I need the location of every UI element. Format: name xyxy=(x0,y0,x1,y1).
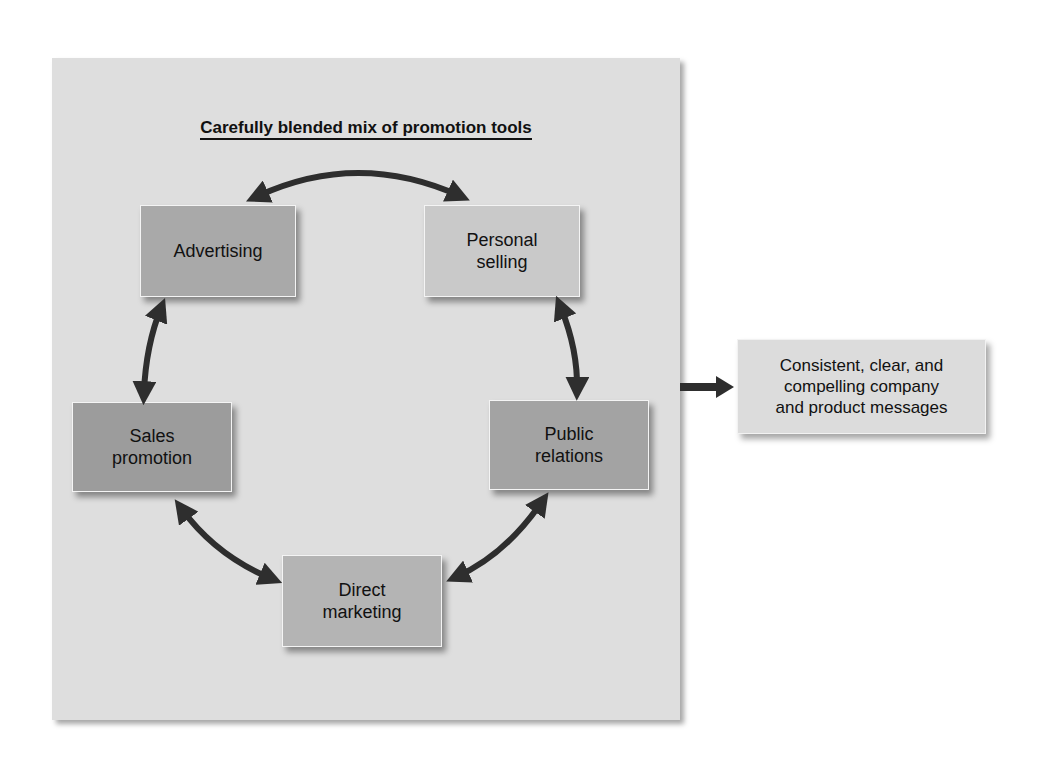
output-line-2: compelling company xyxy=(776,376,948,397)
tool-label-direct-marketing: Direct marketing xyxy=(313,579,411,623)
output-line-3: and product messages xyxy=(776,397,948,418)
tool-box-direct-marketing: Direct marketing xyxy=(282,555,442,647)
tool-label-personal-selling: Personal selling xyxy=(455,229,549,273)
tool-label-advertising: Advertising xyxy=(173,240,262,262)
tool-label-public-relations: Public relations xyxy=(526,423,612,467)
tool-label-sales-promotion: Sales promotion xyxy=(109,425,195,469)
output-message-box: Consistent, clear, and compelling compan… xyxy=(737,339,986,434)
diagram-title: Carefully blended mix of promotion tools xyxy=(52,118,680,138)
tool-box-personal-selling: Personal selling xyxy=(424,205,580,297)
tool-box-public-relations: Public relations xyxy=(489,400,649,490)
output-line-1: Consistent, clear, and xyxy=(776,355,948,376)
tool-box-sales-promotion: Sales promotion xyxy=(72,402,232,492)
tool-box-advertising: Advertising xyxy=(140,205,296,297)
arrow-mix-to-output xyxy=(680,376,734,398)
diagram-title-text: Carefully blended mix of promotion tools xyxy=(200,118,532,140)
